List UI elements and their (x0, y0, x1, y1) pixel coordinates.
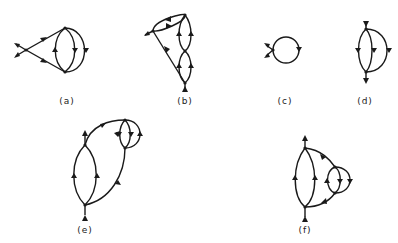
arrow-icon (137, 131, 143, 136)
diagram-d (355, 21, 392, 84)
panel-label-f: (f) (298, 225, 311, 235)
panel-label-c: (c) (278, 96, 293, 106)
diagram-c (264, 37, 302, 63)
arrow-icon (100, 123, 106, 128)
arrow-icon (176, 31, 182, 36)
arrow-icon (302, 135, 308, 141)
arrow-icon (14, 43, 20, 48)
panel-label-b: (b) (177, 96, 193, 106)
arrow-icon (292, 175, 298, 180)
feynman-diagrams-figure (0, 0, 398, 243)
arrow-icon (71, 173, 77, 178)
arrow-icon (82, 215, 88, 221)
arrow-icon (94, 173, 100, 178)
arrow-icon (321, 198, 327, 204)
arrow-icon (176, 63, 182, 68)
arrow-icon (144, 31, 150, 36)
arrow-icon (72, 48, 78, 53)
panel-label-d: (d) (357, 96, 373, 106)
diagram-e (71, 118, 143, 221)
arrow-icon (182, 86, 188, 92)
arrow-icon (128, 132, 134, 137)
arrow-icon (363, 21, 369, 27)
arrow-icon (14, 52, 20, 58)
arrow-icon (166, 23, 172, 29)
arrow-icon (337, 179, 343, 184)
arrow-icon (355, 48, 361, 53)
panel-label-e: (e) (77, 225, 93, 235)
arrow-icon (188, 31, 194, 36)
arrow-icon (188, 63, 194, 68)
arrow-icon (347, 179, 353, 184)
arrow-icon (324, 178, 330, 183)
diagram-b (144, 13, 194, 92)
arrow-icon (312, 175, 318, 180)
panel-label-a: (a) (59, 96, 75, 106)
arrow-icon (82, 130, 88, 136)
arrow-icon (302, 216, 308, 222)
arrow-icon (296, 47, 302, 52)
diagram-f (292, 135, 353, 222)
arrow-icon (52, 47, 58, 52)
arrow-icon (363, 78, 369, 84)
diagram-a (14, 26, 89, 73)
